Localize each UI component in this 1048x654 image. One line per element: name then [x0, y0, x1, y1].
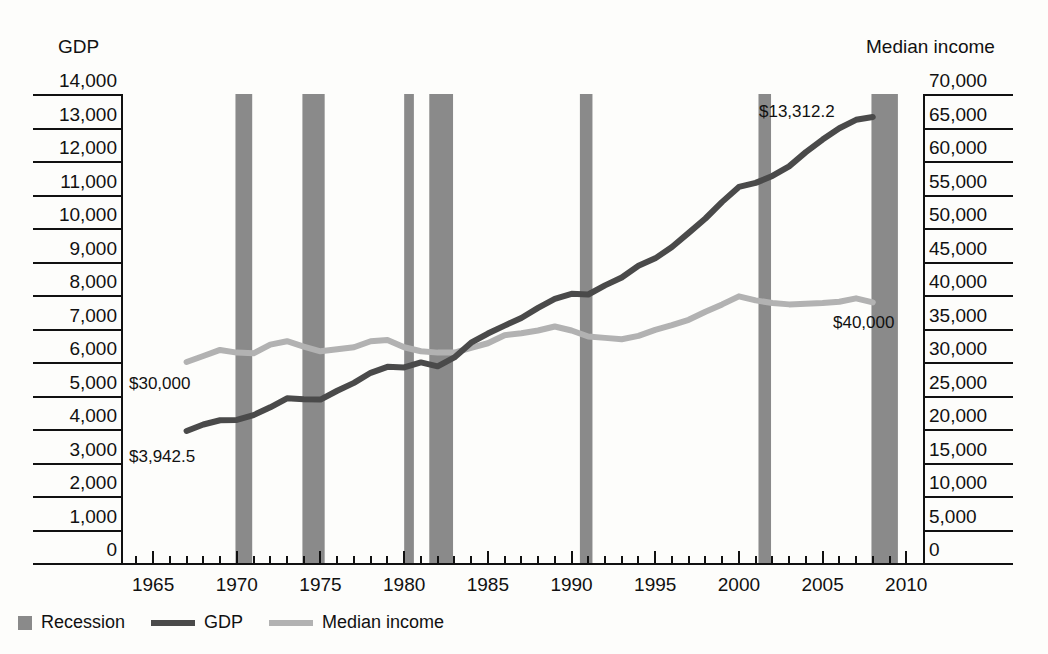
- left-tick-label: 14,000: [33, 70, 123, 94]
- ladder-rule: [923, 362, 1013, 364]
- right-tick-label: 60,000: [923, 137, 1013, 161]
- left-axis-ladder: 14,00013,00012,00011,00010,0009,0008,000…: [33, 0, 123, 654]
- x-tick-minor: [219, 556, 221, 563]
- x-tick-major: [319, 551, 321, 563]
- x-tick-major: [738, 551, 740, 563]
- legend-item-gdp[interactable]: GDP: [151, 612, 243, 633]
- x-tick-minor: [838, 556, 840, 563]
- ladder-rule: [923, 262, 1013, 264]
- x-tick-minor: [135, 556, 137, 563]
- income-start-label: $30,000: [129, 374, 190, 394]
- right-tick-label: 50,000: [923, 204, 1013, 228]
- chart-legend: RecessionGDPMedian income: [18, 612, 470, 633]
- x-tick-minor: [504, 556, 506, 563]
- x-tick-minor: [253, 556, 255, 563]
- ladder-rule: [33, 463, 123, 465]
- x-tick-minor: [855, 556, 857, 563]
- gdp-end-label: $13,312.2: [759, 102, 835, 122]
- right-axis-ladder: 70,00065,00060,00055,00050,00045,00040,0…: [923, 0, 1013, 654]
- x-tick-minor: [721, 556, 723, 563]
- left-tick-label: 9,000: [33, 238, 123, 262]
- right-tick-label: 45,000: [923, 238, 1013, 262]
- ladder-rule: [33, 429, 123, 431]
- x-tick-minor: [420, 556, 422, 563]
- right-tick-label: 55,000: [923, 171, 1013, 195]
- ladder-rule: [33, 94, 123, 96]
- x-tick-major: [236, 551, 238, 563]
- ladder-rule: [33, 362, 123, 364]
- ladder-rule: [923, 228, 1013, 230]
- left-tick-label: 1,000: [33, 506, 123, 530]
- left-tick-label: 8,000: [33, 271, 123, 295]
- x-tick-minor: [621, 556, 623, 563]
- recession-band: [758, 94, 771, 563]
- legend-item-median-income[interactable]: Median income: [269, 612, 444, 633]
- x-tick-minor: [470, 556, 472, 563]
- ladder-rule: [33, 496, 123, 498]
- right-tick-label: 35,000: [923, 305, 1013, 329]
- x-tick-minor: [554, 556, 556, 563]
- x-tick-major: [905, 551, 907, 563]
- x-tick-minor: [587, 556, 589, 563]
- chart-canvas: GDP Median income 14,00013,00012,00011,0…: [0, 0, 1048, 654]
- x-tick-minor: [688, 556, 690, 563]
- right-tick-label: 65,000: [923, 104, 1013, 128]
- x-tick-minor: [872, 556, 874, 563]
- x-tick-minor: [437, 556, 439, 563]
- right-tick-label: 5,000: [923, 506, 1013, 530]
- x-tick-minor: [520, 556, 522, 563]
- recession-band: [235, 94, 252, 563]
- x-tick-minor: [286, 556, 288, 563]
- ladder-rule: [33, 329, 123, 331]
- x-tick-minor: [637, 556, 639, 563]
- x-axis-line: [33, 563, 1013, 565]
- ladder-rule: [923, 195, 1013, 197]
- left-tick-label: 10,000: [33, 204, 123, 228]
- legend-item-recession[interactable]: Recession: [18, 612, 125, 633]
- ladder-rule: [923, 396, 1013, 398]
- ladder-rule: [923, 563, 1013, 565]
- recession-band: [429, 94, 453, 563]
- x-tick-minor: [269, 556, 271, 563]
- x-tick-minor: [303, 556, 305, 563]
- legend-swatch-line-icon: [151, 620, 195, 626]
- left-tick-label: 13,000: [33, 104, 123, 128]
- ladder-rule: [33, 563, 123, 565]
- ladder-rule: [33, 396, 123, 398]
- right-tick-label: 10,000: [923, 472, 1013, 496]
- x-tick-minor: [169, 556, 171, 563]
- ladder-rule: [923, 161, 1013, 163]
- right-tick-label: 30,000: [923, 338, 1013, 362]
- x-tick-major: [654, 551, 656, 563]
- legend-label: Median income: [322, 612, 444, 633]
- left-tick-label: 7,000: [33, 305, 123, 329]
- right-tick-label: 20,000: [923, 405, 1013, 429]
- x-tick-minor: [202, 556, 204, 563]
- ladder-edge: [121, 94, 123, 563]
- legend-label: GDP: [204, 612, 243, 633]
- x-tick-major: [152, 551, 154, 563]
- ladder-rule: [33, 228, 123, 230]
- x-tick-major: [571, 551, 573, 563]
- x-tick-minor: [671, 556, 673, 563]
- x-tick-minor: [788, 556, 790, 563]
- ladder-rule: [33, 262, 123, 264]
- x-tick-major: [403, 551, 405, 563]
- x-tick-minor: [889, 556, 891, 563]
- left-tick-label: 3,000: [33, 439, 123, 463]
- right-tick-label: 0: [923, 539, 1013, 563]
- x-tick-minor: [537, 556, 539, 563]
- x-tick-minor: [604, 556, 606, 563]
- ladder-rule: [923, 530, 1013, 532]
- left-tick-label: 2,000: [33, 472, 123, 496]
- x-tick-minor: [353, 556, 355, 563]
- ladder-rule: [923, 295, 1013, 297]
- x-tick-minor: [453, 556, 455, 563]
- right-tick-label: 40,000: [923, 271, 1013, 295]
- ladder-rule: [33, 128, 123, 130]
- right-tick-label: 15,000: [923, 439, 1013, 463]
- x-tick-minor: [386, 556, 388, 563]
- ladder-rule: [923, 429, 1013, 431]
- ladder-rule: [923, 329, 1013, 331]
- x-tick-minor: [370, 556, 372, 563]
